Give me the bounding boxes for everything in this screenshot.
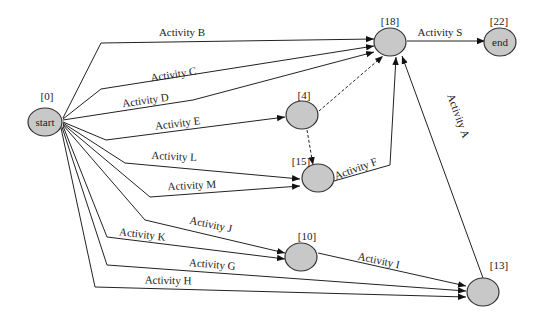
label-activity-d: Activity D	[121, 91, 169, 109]
node-18: [18]	[374, 15, 406, 56]
label-activity-m: Activity M	[167, 178, 216, 193]
edge-activity-k	[63, 126, 285, 259]
edge-activity-b	[63, 39, 374, 118]
edge-activity-d	[63, 52, 374, 120]
node-4-label: [4]	[298, 89, 311, 101]
label-activity-f: Activity F	[332, 155, 378, 182]
node-10-label: [10]	[298, 230, 316, 242]
activity-network-diagram: start [0] [4] [10] [13] [15] [18] end [2…	[0, 0, 545, 324]
label-activity-c: Activity C	[150, 65, 197, 84]
label-activity-l: Activity L	[151, 149, 197, 163]
node-end-label: [22]	[490, 15, 508, 27]
label-activity-g: Activity G	[189, 256, 237, 272]
label-activity-a: Activity A	[445, 92, 472, 140]
label-activity-b: Activity B	[159, 26, 205, 38]
node-18-label: [18]	[381, 15, 399, 27]
edge-activity-g	[62, 127, 466, 291]
node-start: start [0]	[28, 90, 62, 136]
label-activity-s: Activity S	[418, 26, 463, 38]
node-15-label: [15]	[292, 155, 310, 167]
edge-activity-c	[63, 46, 374, 119]
node-13-label: [13]	[490, 259, 508, 271]
node-end-text: end	[492, 36, 508, 48]
node-4: [4]	[286, 89, 318, 129]
label-activity-i: Activity I	[357, 250, 401, 271]
label-activity-k: Activity K	[119, 225, 167, 243]
node-13: [13]	[467, 259, 508, 306]
node-end: end [22]	[484, 15, 516, 56]
node-10: [10]	[285, 230, 317, 271]
node-start-label: [0]	[41, 90, 54, 102]
node-start-text: start	[36, 116, 55, 128]
label-activity-h: Activity H	[145, 274, 192, 287]
diagram-svg: start [0] [4] [10] [13] [15] [18] end [2…	[0, 0, 545, 324]
edge-activity-h	[61, 128, 466, 297]
edge-activity-a	[402, 56, 483, 278]
